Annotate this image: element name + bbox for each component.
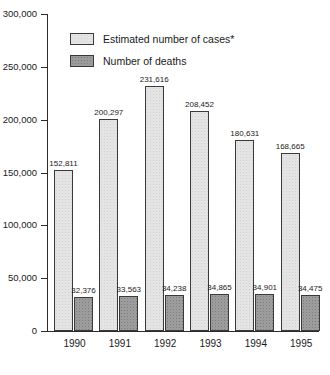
bar-deaths-1990: 32,376	[74, 297, 93, 331]
bar-value-label: 168,665	[276, 142, 305, 152]
bar-group: 168,66534,4751995	[281, 14, 322, 331]
x-axis-tick-label: 1991	[99, 338, 140, 350]
y-axis-tick: 250,000	[41, 67, 47, 68]
bar-value-label: 152,811	[49, 159, 77, 169]
bar-cases-1994: 180,631	[235, 140, 254, 331]
x-axis-tick-label: 1993	[190, 338, 231, 350]
bar-deaths-1994: 34,901	[255, 294, 274, 331]
bar-value-label: 34,238	[162, 284, 186, 294]
y-axis-tick: 300,000	[41, 14, 47, 15]
y-axis-tick-label: 50,000	[8, 271, 37, 284]
x-axis-line	[47, 331, 319, 332]
y-axis-tick-label: 150,000	[3, 166, 37, 179]
bar-group: 180,63134,9011994	[235, 14, 276, 331]
legend-item-cases: Estimated number of cases*	[70, 30, 234, 48]
y-axis-tick-label: 100,000	[3, 218, 37, 231]
x-axis-tick-label: 1990	[54, 338, 95, 350]
plot-area: 050,000100,000150,000200,000250,000300,0…	[47, 14, 319, 332]
x-axis-tick-label: 1994	[235, 338, 276, 350]
bar-value-label: 33,563	[117, 285, 141, 295]
bar-cases-1993: 208,452	[190, 111, 209, 331]
bar-deaths-1995: 34,475	[301, 295, 320, 331]
bar-value-label: 34,475	[298, 284, 322, 294]
bar-cases-1995: 168,665	[281, 153, 300, 331]
bar-cases-1990: 152,811	[54, 170, 73, 331]
y-axis-tick-label: 300,000	[3, 7, 37, 20]
bar-value-label: 180,631	[230, 129, 259, 139]
y-axis-tick: 0	[41, 331, 47, 332]
bar-value-label: 231,616	[140, 75, 169, 85]
legend-label-deaths: Number of deaths	[103, 55, 186, 68]
y-axis-tick: 100,000	[41, 225, 47, 226]
bar-value-label: 200,297	[94, 108, 123, 118]
y-axis-tick: 50,000	[41, 278, 47, 279]
bar-deaths-1993: 34,865	[210, 294, 229, 331]
bar-value-label: 208,452	[185, 100, 214, 110]
bar-cases-1991: 200,297	[99, 119, 118, 331]
y-axis-tick-label: 250,000	[3, 60, 37, 73]
legend-swatch-deaths-icon	[70, 55, 94, 67]
bar-value-label: 34,901	[253, 283, 277, 293]
x-axis-tick-label: 1992	[145, 338, 186, 350]
y-axis-tick: 200,000	[41, 120, 47, 121]
chart-legend: Estimated number of cases* Number of dea…	[70, 30, 234, 74]
bar-value-label: 34,865	[207, 283, 231, 293]
bar-chart: 050,000100,000150,000200,000250,000300,0…	[0, 0, 330, 375]
y-axis-line	[47, 14, 48, 332]
legend-swatch-cases-icon	[70, 33, 94, 45]
bar-cases-1992: 231,616	[145, 86, 164, 331]
bar-value-label: 32,376	[71, 286, 95, 296]
bar-deaths-1992: 34,238	[165, 295, 184, 331]
legend-label-cases: Estimated number of cases*	[103, 33, 234, 46]
y-axis-tick: 150,000	[41, 173, 47, 174]
y-axis-tick-label: 0	[32, 324, 37, 337]
legend-item-deaths: Number of deaths	[70, 52, 234, 70]
x-axis-tick-label: 1995	[281, 338, 322, 350]
bar-deaths-1991: 33,563	[119, 296, 138, 331]
y-axis-tick-label: 200,000	[3, 113, 37, 126]
